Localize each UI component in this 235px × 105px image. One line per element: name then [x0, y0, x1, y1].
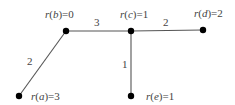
edge-weight-b-a: 2: [27, 55, 33, 67]
node-e: [128, 93, 134, 99]
edge-weight-b-c: 3: [94, 16, 100, 28]
node-label-c: r(c)=1: [120, 8, 148, 21]
edge-weight-c-d: 2: [163, 16, 169, 28]
node-d: [200, 27, 206, 33]
node-label-d: r(d)=2: [194, 7, 223, 20]
node-a: [16, 93, 22, 99]
edge-weight-c-e: 1: [122, 58, 128, 70]
node-b: [63, 28, 69, 34]
node-label-a: r(a)=3: [31, 90, 60, 103]
edge-c-d: [131, 30, 203, 31]
node-c: [128, 28, 134, 34]
node-label-e: r(e)=1: [146, 90, 174, 103]
node-label-b: r(b)=0: [45, 8, 74, 21]
tree-diagram: 3 2 2 1 r(b)=0 r(c)=1 r(d)=2 r(a)=3 r(e)…: [0, 0, 235, 105]
